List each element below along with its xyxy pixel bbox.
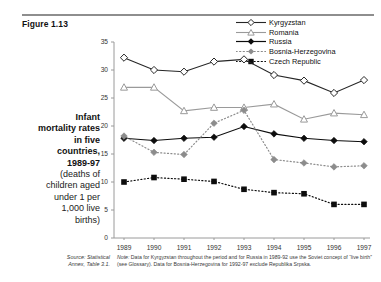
- data-point-marker: [331, 164, 338, 171]
- data-point-marker: [241, 186, 247, 192]
- figure-footnote: Note: Data for Kyrgyzstan throughout the…: [117, 254, 379, 269]
- legend-swatch-open-diamond-icon: [236, 18, 266, 27]
- data-point-marker: [151, 137, 158, 144]
- data-point-marker: [330, 89, 337, 96]
- data-point-marker: [361, 162, 368, 169]
- caption-regular-line: under 1 per: [4, 192, 100, 203]
- data-point-marker: [151, 149, 158, 156]
- legend-item-kyrgyzstan[interactable]: Kyrgyzstan: [236, 18, 380, 28]
- x-axis-tick-label: 1997: [344, 244, 381, 251]
- caption-bold-line: 1989-97: [4, 158, 100, 169]
- y-axis-tick-label: 10: [94, 178, 108, 185]
- caption-regular-line: children aged: [4, 180, 100, 191]
- data-point-marker: [271, 156, 278, 163]
- data-point-marker: [331, 202, 337, 208]
- legend-label: Kyrgyzstan: [269, 18, 306, 27]
- data-point-marker: [361, 202, 367, 208]
- caption-bold-line: mortality rates: [4, 123, 100, 134]
- y-axis-tick-label: 35: [94, 38, 108, 45]
- data-point-marker: [181, 176, 187, 182]
- data-point-marker: [361, 138, 368, 145]
- data-point-marker: [301, 191, 307, 197]
- source-line-2: Annex, Table 3.1.: [18, 261, 110, 268]
- data-point-marker: [120, 54, 127, 61]
- data-point-marker: [360, 76, 367, 83]
- data-point-marker: [151, 175, 157, 181]
- caption-regular-line: 1,000 live: [4, 203, 100, 214]
- data-point-marker: [211, 134, 218, 141]
- figure-container: Figure 1.13 Infant mortality rates in fi…: [0, 0, 381, 282]
- legend-label: Romania: [269, 28, 299, 37]
- data-point-marker: [301, 135, 308, 142]
- data-point-marker: [211, 120, 218, 127]
- footnote-prefix: Note:: [117, 254, 129, 260]
- series-line-bosnia-herzegovina: [124, 110, 364, 167]
- y-axis-tick-label: 30: [94, 66, 108, 73]
- legend-swatch-open-triangle-icon: [236, 28, 266, 37]
- data-point-marker: [300, 77, 307, 84]
- legend-item-romania[interactable]: Romania: [236, 28, 380, 38]
- data-point-marker: [271, 190, 277, 196]
- caption-bold-line: Infant: [4, 112, 100, 123]
- chart-plot-area: [100, 40, 376, 240]
- data-point-marker: [241, 123, 248, 130]
- caption-regular-line: births): [4, 215, 100, 226]
- data-point-marker: [331, 137, 338, 144]
- source-line-1: Source: Statistical: [18, 254, 110, 261]
- data-point-marker: [210, 58, 217, 65]
- data-point-marker: [150, 66, 157, 73]
- data-point-marker: [240, 56, 247, 63]
- data-point-marker: [301, 160, 308, 167]
- data-point-marker: [181, 135, 188, 142]
- figure-label: Figure 1.13: [22, 19, 68, 29]
- data-point-marker: [271, 101, 278, 107]
- data-point-marker: [211, 179, 217, 185]
- y-axis-tick-label: 25: [94, 94, 108, 101]
- source-note: Source: Statistical Annex, Table 3.1.: [18, 254, 110, 269]
- footnote-text: Data for Kyrgyzstan throughout the perio…: [117, 254, 372, 267]
- data-point-marker: [121, 179, 127, 185]
- data-point-marker: [271, 131, 278, 138]
- caption-bold-line: countries,: [4, 146, 100, 157]
- caption-bold-line: in five: [4, 135, 100, 146]
- y-axis-tick-label: 0: [94, 234, 108, 241]
- top-divider-rule: [22, 14, 374, 16]
- line-chart: [100, 40, 376, 240]
- caption-regular-line: (deaths of: [4, 169, 100, 180]
- data-point-marker: [180, 68, 187, 75]
- y-axis-tick-label: 15: [94, 150, 108, 157]
- y-axis-tick-label: 20: [94, 122, 108, 129]
- figure-caption: Infant mortality rates in five countries…: [4, 112, 100, 226]
- data-point-marker: [270, 71, 277, 78]
- y-axis-tick-label: 5: [94, 206, 108, 213]
